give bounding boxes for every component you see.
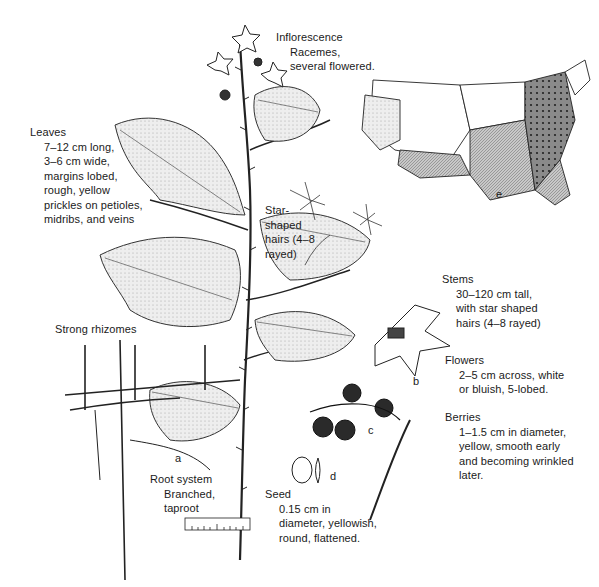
stems-label: Stems 30–120 cm tall, with star shaped h… [442,272,541,330]
leaves-label: Leaves 7–12 cm long, 3–6 cm wide, margin… [30,125,143,227]
root-system-heading: Root system [150,472,215,487]
inflorescence-heading: Inflorescence [276,30,375,45]
flowers-label: Flowers 2–5 cm across, white or bluish, … [445,353,564,397]
rhizomes-heading: Strong rhizomes [55,322,137,337]
flower-b [375,305,450,376]
leaves-line-2: 3–6 cm wide, [30,154,143,169]
inflorescence-label: Inflorescence Racemes, several flowered. [276,30,375,74]
berries-c [310,384,400,440]
panel-letter-c: c [368,424,374,436]
star-hairs-line-1: Star- [265,203,315,218]
seed-d [292,457,320,483]
flowers-line-1: 2–5 cm across, white [445,368,564,383]
star-hairs-label: Star- shaped hairs (4–8 rayed) [265,203,315,261]
stems-line-3: hairs (4–8 rayed) [442,316,541,331]
panel-letter-e: e [496,188,502,200]
leaves-heading: Leaves [30,125,143,140]
berries-heading: Berries [445,410,574,425]
inflorescence-line-2: several flowered. [276,59,375,74]
root-system-label: Root system Branched, taproot [150,472,215,516]
leaves-line-3: margins lobed, [30,169,143,184]
seed-line-2: diameter, yellowish, [265,516,377,531]
seed-label: Seed 0.15 cm in diameter, yellowish, rou… [265,487,377,545]
inflorescence-line-1: Racemes, [276,45,375,60]
berries-line-1: 1–1.5 cm in diameter, [445,425,574,440]
rhizomes-label: Strong rhizomes [55,322,137,337]
leaves-line-4: rough, yellow [30,183,143,198]
seed-line-3: round, flattened. [265,531,377,546]
leaves-line-6: midribs, and veins [30,212,143,227]
flowers-heading: Flowers [445,353,564,368]
seed-line-1: 0.15 cm in [265,502,377,517]
panel-letter-d: d [330,470,336,482]
scale-ruler [185,518,250,530]
root-system-line-1: Branched, [150,487,215,502]
leaves-line-5: prickles on petioles, [30,198,143,213]
flowers-line-2: or bluish, 5-lobed. [445,382,564,397]
berries-line-4: later. [445,468,574,483]
star-hairs-line-4: rayed) [265,247,315,262]
us-distribution-map [362,60,590,205]
root-system-line-2: taproot [150,501,215,516]
panel-letter-b: b [413,375,419,387]
stems-heading: Stems [442,272,541,287]
rhizome-roots [65,340,240,580]
star-hairs-line-2: shaped [265,218,315,233]
star-hairs-line-3: hairs (4–8 [265,232,315,247]
stems-line-1: 30–120 cm tall, [442,287,541,302]
leaves-line-1: 7–12 cm long, [30,140,143,155]
stems-line-2: with star shaped [442,301,541,316]
berries-line-3: and becoming wrinkled [445,454,574,469]
panel-letter-a: a [175,452,181,464]
berries-line-2: yellow, smooth early [445,439,574,454]
seed-heading: Seed [265,487,377,502]
berries-label: Berries 1–1.5 cm in diameter, yellow, sm… [445,410,574,483]
